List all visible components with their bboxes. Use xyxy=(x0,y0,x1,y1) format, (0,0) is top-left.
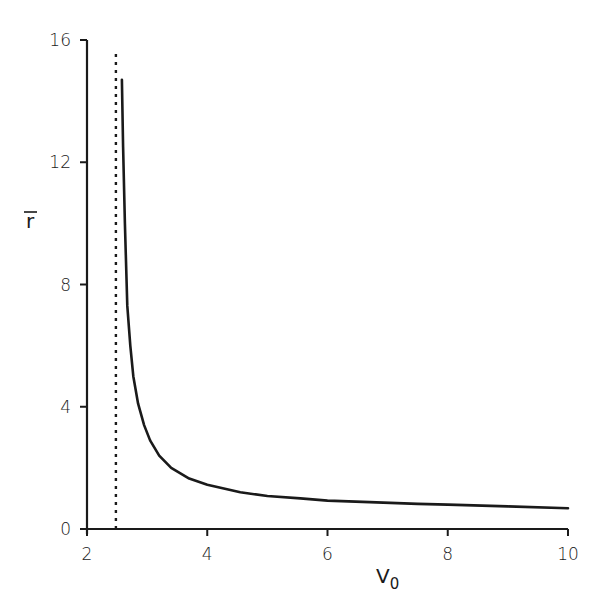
x-tick-label: 6 xyxy=(322,544,333,564)
series-group xyxy=(116,49,568,529)
data-curve xyxy=(122,80,568,509)
x-tick-label: 4 xyxy=(202,544,213,564)
y-tick-label: 0 xyxy=(60,519,71,539)
y-tick-label: 4 xyxy=(60,397,71,417)
x-ticks: 246810 xyxy=(82,529,579,564)
x-axis-label-subscript: 0 xyxy=(390,575,400,593)
y-ticks: 0481216 xyxy=(49,30,87,539)
x-tick-label: 8 xyxy=(442,544,453,564)
y-tick-label: 8 xyxy=(60,275,71,295)
x-tick-label: 10 xyxy=(557,544,579,564)
x-axis-label: V0 xyxy=(376,564,399,593)
x-axis-label-main: V xyxy=(376,564,390,588)
y-tick-label: 12 xyxy=(49,152,71,172)
y-tick-label: 16 xyxy=(49,30,71,50)
x-tick-label: 2 xyxy=(82,544,93,564)
axes xyxy=(82,40,568,534)
chart: 0481216 246810 r V0 xyxy=(0,0,603,610)
